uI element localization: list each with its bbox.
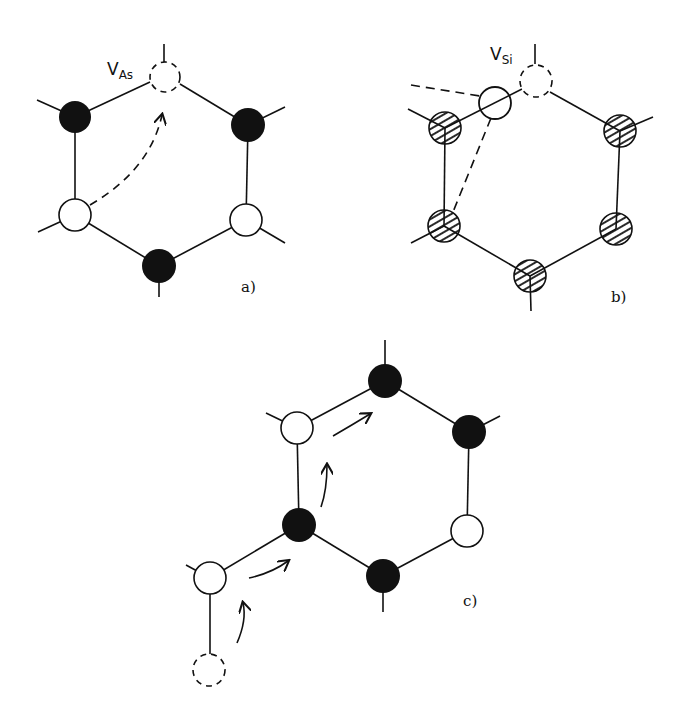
hatched-atom	[428, 210, 460, 242]
hatched-atom	[600, 213, 632, 245]
panel-label-b: b)	[611, 288, 626, 306]
panel-label-c: c)	[463, 592, 477, 610]
vacancy-label-si: VSi	[490, 44, 513, 67]
vacancy-site	[520, 65, 552, 97]
panel-label-a: a)	[241, 278, 256, 296]
hatched-atom	[429, 112, 461, 144]
hatched-atom	[514, 260, 546, 292]
filled-atom	[59, 101, 91, 133]
open-atom	[451, 515, 483, 547]
open-atom	[194, 562, 226, 594]
filled-atom	[366, 559, 400, 593]
panel-c-atoms	[193, 364, 486, 686]
vacancy-site	[193, 654, 225, 686]
vacancy-site	[150, 62, 180, 92]
panel-b-atoms	[428, 65, 636, 292]
filled-atom	[452, 415, 486, 449]
panel-c	[186, 340, 500, 655]
defect-diagram: VAs a) VSi b)	[0, 0, 689, 716]
filled-atom	[282, 508, 316, 542]
vacancy-label-as: VAs	[107, 59, 133, 82]
filled-atom	[142, 249, 176, 283]
filled-atom	[231, 108, 265, 142]
filled-atom	[368, 364, 402, 398]
hatched-atom	[604, 115, 636, 147]
open-atom	[281, 412, 313, 444]
open-atom	[59, 199, 91, 231]
open-atom	[230, 204, 262, 236]
panel-a-atoms	[59, 62, 265, 283]
